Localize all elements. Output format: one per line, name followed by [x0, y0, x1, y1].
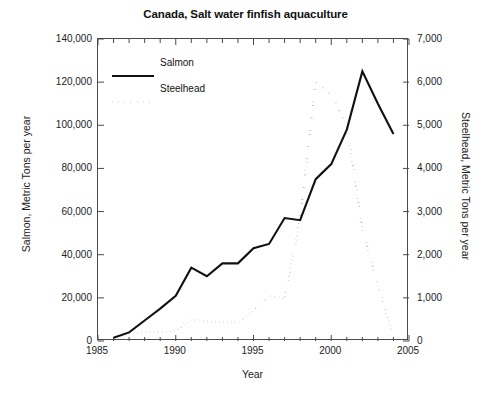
y-tick-right-4: 4,000 — [417, 162, 442, 173]
y-tick-left-5: 100,000 — [56, 119, 92, 130]
figure-container: Canada, Salt water finfish aquaculture 0… — [0, 0, 491, 401]
y-tick-right-1: 1,000 — [417, 291, 442, 302]
y-tick-right-5: 5,000 — [417, 119, 442, 130]
series-line-steelhead — [114, 82, 394, 338]
figure-caption — [6, 388, 306, 400]
y-tick-left-7: 140,000 — [56, 33, 92, 44]
y-tick-right-3: 3,000 — [417, 205, 442, 216]
legend-item-salmon[interactable]: Salmon — [112, 55, 242, 81]
y-axis-left-tick-labels: 0 20,000 40,000 60,000 80,000 100,000 12… — [32, 0, 92, 401]
x-tick-2005: 2005 — [397, 345, 419, 356]
x-tick-2000: 2000 — [319, 345, 341, 356]
y-tick-left-1: 20,000 — [61, 291, 92, 302]
x-tick-1985: 1985 — [86, 345, 108, 356]
legend-swatch-dotted-line-icon — [112, 90, 154, 94]
legend-label-salmon: Salmon — [160, 57, 194, 68]
legend-item-steelhead[interactable]: Steelhead — [112, 81, 242, 107]
series-line-salmon — [114, 71, 394, 337]
x-axis-title: Year — [97, 368, 408, 380]
x-tick-1990: 1990 — [164, 345, 186, 356]
y-tick-right-0: 0 — [417, 335, 423, 346]
chart-legend: Salmon Steelhead — [112, 55, 242, 107]
y-tick-right-7: 7,000 — [417, 33, 442, 44]
legend-label-steelhead: Steelhead — [160, 83, 205, 94]
y-axis-right-title: Steelhead, Metric Tons per year — [460, 56, 472, 316]
x-tick-1995: 1995 — [241, 345, 263, 356]
y-axis-left-title: Salmon, Metric Tons per year — [20, 54, 32, 314]
x-axis-tick-labels: 1985 1990 1995 2000 2005 — [0, 345, 491, 361]
y-tick-right-2: 2,000 — [417, 248, 442, 259]
y-tick-left-4: 80,000 — [61, 162, 92, 173]
y-tick-left-2: 40,000 — [61, 248, 92, 259]
y-tick-left-3: 60,000 — [61, 205, 92, 216]
y-tick-left-0: 0 — [86, 335, 92, 346]
legend-swatch-solid-line-icon — [112, 64, 154, 68]
y-tick-right-6: 6,000 — [417, 76, 442, 87]
y-tick-left-6: 120,000 — [56, 76, 92, 87]
